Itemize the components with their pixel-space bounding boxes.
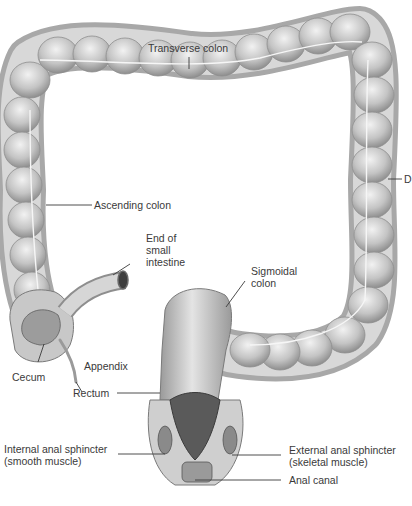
label-sigmoidal-colon: Sigmoidal colon — [251, 265, 297, 289]
label-ascending-colon: Ascending colon — [94, 199, 171, 211]
label-appendix: Appendix — [84, 360, 128, 372]
rectum — [148, 289, 243, 485]
label-cecum: Cecum — [12, 371, 45, 383]
small-intestine-end — [65, 271, 128, 312]
external-sphincter-shape — [223, 426, 237, 454]
label-descending-colon: D — [404, 173, 412, 185]
label-end-of-small-intestine: End of small intestine — [146, 232, 185, 268]
label-transverse-colon: Transverse colon — [148, 42, 228, 54]
internal-sphincter-shape — [158, 426, 172, 454]
label-internal-anal-sphincter: Internal anal sphincter (smooth muscle) — [4, 443, 107, 467]
label-rectum: Rectum — [73, 387, 109, 399]
label-anal-canal: Anal canal — [289, 474, 338, 486]
label-external-anal-sphincter: External anal sphincter (skeletal muscle… — [289, 444, 396, 468]
